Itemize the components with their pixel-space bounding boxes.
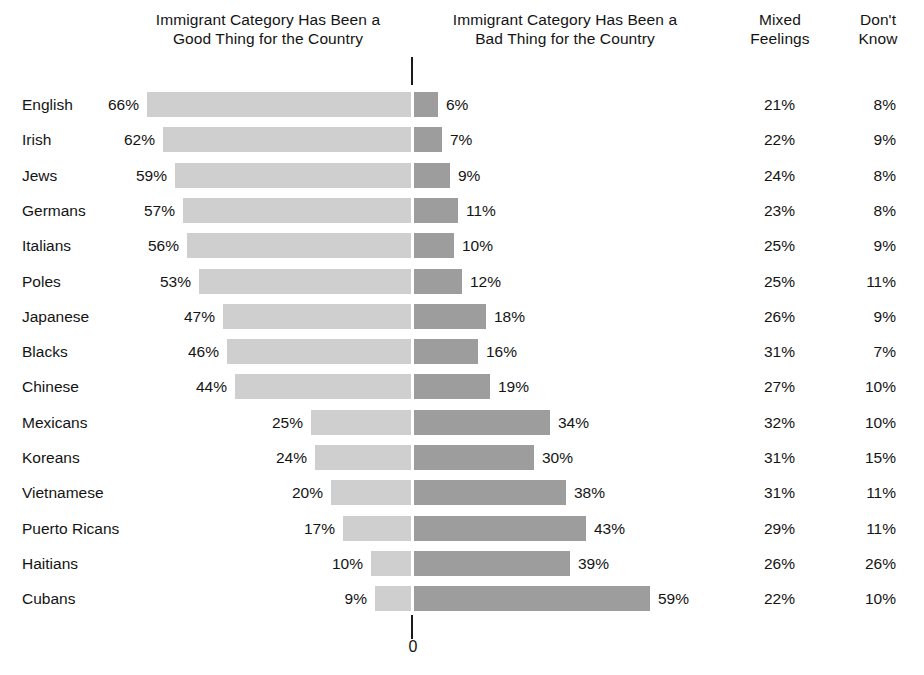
bar-good-thing [223,304,411,329]
table-row: Puerto Ricans17%43%29%11% [0,512,924,547]
table-row: Blacks46%16%31%7% [0,335,924,370]
category-label: Japanese [22,306,89,328]
column-header-bad-thing: Immigrant Category Has Been a Bad Thing … [415,10,715,48]
value-mixed-feelings: 31% [735,447,795,469]
value-mixed-feelings: 26% [735,306,795,328]
table-row: Cubans9%59%22%10% [0,582,924,617]
bar-bad-thing [414,233,454,258]
bar-good-thing [163,127,411,152]
column-header-dont-know-line1: Don't [838,10,918,29]
value-bad-thing: 16% [486,341,517,363]
value-bad-thing: 43% [594,518,625,540]
bar-good-thing [371,551,411,576]
category-label: Haitians [22,553,78,575]
column-header-mixed-feelings-line2: Feelings [735,29,825,48]
column-header-dont-know-line2: Know [838,29,918,48]
table-row: Jews59%9%24%8% [0,159,924,194]
bar-good-thing [311,410,411,435]
table-row: Mexicans25%34%32%10% [0,406,924,441]
value-mixed-feelings: 25% [735,271,795,293]
column-header-good-thing: Immigrant Category Has Been a Good Thing… [118,10,418,48]
value-dont-know: 8% [838,94,896,116]
value-dont-know: 8% [838,165,896,187]
value-mixed-feelings: 25% [735,235,795,257]
column-header-dont-know: Don't Know [838,10,918,48]
category-label: Italians [22,235,71,257]
value-dont-know: 10% [838,412,896,434]
value-mixed-feelings: 26% [735,553,795,575]
value-mixed-feelings: 31% [735,341,795,363]
table-row: Chinese44%19%27%10% [0,370,924,405]
bar-good-thing [187,233,411,258]
bar-good-thing [199,269,411,294]
bar-good-thing [235,374,411,399]
value-dont-know: 9% [838,129,896,151]
value-mixed-feelings: 31% [735,482,795,504]
column-header-mixed-feelings: Mixed Feelings [735,10,825,48]
axis-tick-top [411,57,413,85]
value-mixed-feelings: 21% [735,94,795,116]
value-mixed-feelings: 27% [735,376,795,398]
category-label: Blacks [22,341,68,363]
bar-bad-thing [414,304,486,329]
bar-bad-thing [414,269,462,294]
value-dont-know: 7% [838,341,896,363]
value-bad-thing: 6% [446,94,468,116]
value-bad-thing: 34% [558,412,589,434]
value-good-thing: 66% [35,94,139,116]
bar-good-thing [375,586,411,611]
value-good-thing: 53% [87,271,191,293]
value-mixed-feelings: 22% [735,129,795,151]
value-good-thing: 47% [111,306,215,328]
table-row: Poles53%12%25%11% [0,265,924,300]
value-bad-thing: 18% [494,306,525,328]
bar-bad-thing [414,339,478,364]
value-dont-know: 10% [838,376,896,398]
value-good-thing: 24% [203,447,307,469]
table-row: Vietnamese20%38%31%11% [0,476,924,511]
value-good-thing: 17% [231,518,335,540]
category-label: Mexicans [22,412,87,434]
value-dont-know: 11% [838,271,896,293]
bar-bad-thing [414,551,570,576]
category-label: Poles [22,271,61,293]
value-bad-thing: 38% [574,482,605,504]
value-bad-thing: 30% [542,447,573,469]
category-label: Irish [22,129,51,151]
value-dont-know: 26% [838,553,896,575]
value-bad-thing: 39% [578,553,609,575]
category-label: Cubans [22,588,75,610]
value-mixed-feelings: 24% [735,165,795,187]
value-good-thing: 59% [63,165,167,187]
value-good-thing: 44% [123,376,227,398]
column-header-bad-thing-line2: Bad Thing for the Country [415,29,715,48]
value-bad-thing: 7% [450,129,472,151]
value-good-thing: 20% [219,482,323,504]
value-good-thing: 46% [115,341,219,363]
value-bad-thing: 9% [458,165,480,187]
value-mixed-feelings: 23% [735,200,795,222]
value-bad-thing: 11% [466,200,496,222]
value-bad-thing: 12% [470,271,501,293]
value-dont-know: 9% [838,306,896,328]
value-mixed-feelings: 29% [735,518,795,540]
table-row: Italians56%10%25%9% [0,229,924,264]
value-dont-know: 15% [838,447,896,469]
bar-bad-thing [414,127,442,152]
bar-bad-thing [414,198,458,223]
category-label: Jews [22,165,57,187]
bar-bad-thing [414,516,586,541]
value-dont-know: 10% [838,588,896,610]
category-label: Koreans [22,447,80,469]
table-row: Koreans24%30%31%15% [0,441,924,476]
value-good-thing: 57% [71,200,175,222]
bar-bad-thing [414,445,534,470]
category-label: Chinese [22,376,79,398]
value-good-thing: 62% [51,129,155,151]
value-good-thing: 10% [259,553,363,575]
value-good-thing: 56% [75,235,179,257]
bar-bad-thing [414,163,450,188]
axis-tick-bottom [411,615,413,639]
bar-good-thing [343,516,411,541]
column-header-bad-thing-line1: Immigrant Category Has Been a [415,10,715,29]
